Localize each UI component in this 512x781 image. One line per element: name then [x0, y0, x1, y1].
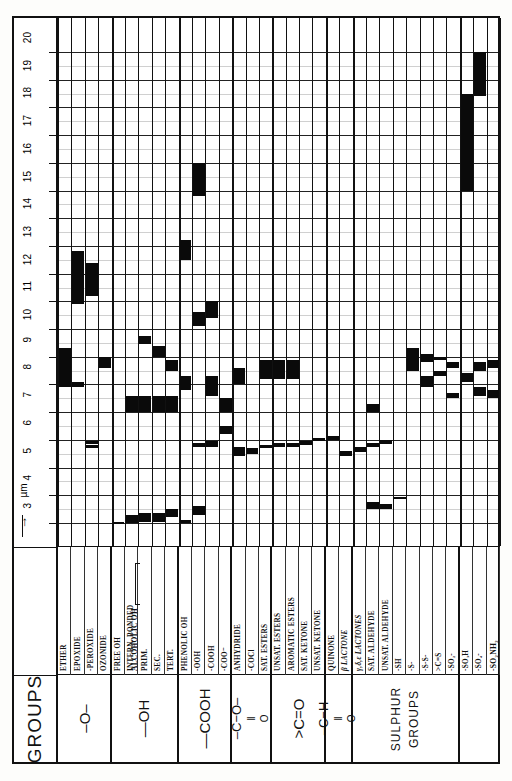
column-separator [406, 18, 407, 546]
subgroup-label-cell-sat-ketone: SAT. KETONE [299, 547, 312, 675]
axis-tick-mark [49, 52, 56, 53]
family-label-hydroxyl: —OH [136, 700, 153, 738]
absorption-band-bar [260, 360, 272, 379]
absorption-band-bar [166, 509, 178, 517]
subgroup-label: SAT. KETONE [301, 621, 309, 671]
absorption-band-bar [180, 520, 192, 523]
absorption-band-bar [153, 346, 165, 357]
subgroup-label-cell-so3h: -SO₃H [460, 547, 473, 675]
subgroup-label-cell-anhydride: ANHYDRIDE [232, 547, 245, 675]
axis-tick-mark [49, 357, 56, 358]
absorption-band-bar [113, 522, 125, 524]
subgroup-label: -COOH [208, 645, 216, 671]
subgroup-label: -SO₂NH₂ [488, 640, 497, 671]
subgroup-label: ANHYDRIDE [234, 624, 242, 671]
absorption-band-bar [166, 360, 178, 371]
subgroup-label-cell-gde-lactones: γ,δ,ε LACTONES [353, 547, 366, 675]
column-separator [339, 18, 340, 546]
subgroup-label-cell-s: -S- [406, 547, 419, 675]
axis-tick-mark [49, 80, 56, 81]
absorption-band-bar [394, 497, 406, 500]
absorption-band-bar [380, 440, 392, 444]
absorption-band-bar [327, 436, 339, 440]
absorption-band-bar [447, 362, 459, 368]
column-separator [125, 18, 126, 546]
absorption-band-bar [233, 368, 245, 385]
subgroup-label: UNSAT. ALDEHYDE [382, 599, 390, 671]
subgroup-label-cell-ether: ETHER [58, 547, 71, 675]
subgroup-label: -COO⁻ [220, 647, 229, 671]
absorption-band-bar [287, 443, 299, 447]
absorption-band-bar [247, 448, 259, 454]
column-separator [205, 18, 206, 546]
subgroup-label-cell-aromatic-esters: AROMATIC ESTERS [286, 547, 299, 675]
family-label-sulphur: SULPHURGROUPS [387, 686, 423, 750]
absorption-band-bar [193, 163, 205, 196]
subgroup-label-cell-coo-minus: -COO⁻ [219, 547, 232, 675]
subgroup-label: -SO₄- [475, 653, 483, 671]
absorption-band-bar [488, 360, 500, 368]
ir-correlation-chart: 34567891011121314151617181920µm→ ETHEREP… [12, 16, 500, 764]
subgroup-label: EPOXIDE [74, 636, 82, 671]
axis-tick-mark [49, 163, 56, 164]
absorption-band-bar [86, 441, 98, 444]
axis-tick-label: 20 [21, 32, 35, 72]
absorption-band-bar [193, 443, 205, 447]
axis-tick-mark [49, 246, 56, 247]
subgroup-label: -SO₃H [462, 650, 470, 671]
column-separator [58, 18, 59, 546]
absorption-band-bar [206, 301, 218, 318]
subgroup-label: AROMATIC ESTERS [288, 597, 296, 671]
family-separator [112, 18, 114, 546]
column-separator [446, 18, 447, 546]
absorption-band-bar [139, 336, 151, 344]
subgroup-label-cell-sat-aldehyde: SAT. ALDEHYDE [366, 547, 379, 675]
absorption-band-bar [367, 443, 379, 447]
absorption-band-bar [340, 451, 352, 457]
absorption-band-bar [273, 443, 285, 447]
absorption-band-bar [86, 445, 98, 448]
family-label-ketone: >C=O [290, 698, 307, 738]
family-cell-sulphur: SULPHURGROUPS [353, 675, 460, 762]
subgroup-label-cell-cs: >C=S [433, 547, 446, 675]
subgroup-label-cell-quinone: QUINONE [326, 547, 339, 675]
subgroup-label-cell-ooh: -OOH [192, 547, 205, 675]
subgroup-label: PHENOLIC OH [181, 616, 189, 671]
subgroup-label: -SH [395, 658, 403, 671]
axis-tick-mark [49, 301, 56, 302]
axis-tick-mark [49, 384, 56, 385]
axis-tick-mark [49, 274, 56, 275]
column-separator [366, 18, 367, 546]
axis-tick-mark [49, 440, 56, 441]
subgroup-label: -OOH [194, 651, 202, 671]
absorption-band-bar [180, 240, 192, 259]
subgroup-label-cell-unsat-esters: UNSAT. ESTERS [272, 547, 285, 675]
wavelength-scale-axis: 34567891011121314151617181920µm→ [14, 18, 58, 547]
family-cell-aldehyde: –C−H‖O [326, 675, 353, 762]
axis-tick-mark [49, 135, 56, 136]
subgroup-label: SAT. ESTERS [261, 624, 269, 671]
subgroup-label-cell-sat-esters: SAT. ESTERS [259, 547, 272, 675]
axis-unit-label: µm [18, 483, 29, 497]
column-separator [433, 18, 434, 546]
subgroup-label-cell-beta-lactone: β LACTONE [339, 547, 352, 675]
absorption-band-bar [220, 426, 232, 434]
subgroup-label-cell-so2: -SO₂- [446, 547, 459, 675]
subgroup-label: -S-S- [422, 654, 430, 671]
absorption-band-bar [206, 376, 218, 395]
scale-label-spacer [14, 547, 58, 675]
absorption-band-bar [193, 506, 205, 514]
column-separator [259, 18, 260, 546]
family-separator [272, 18, 274, 546]
axis-tick-mark [49, 523, 56, 524]
column-separator [152, 18, 153, 546]
absorption-band-bar [421, 376, 433, 387]
axis-arrow-shaft [22, 515, 23, 537]
column-separator [500, 18, 501, 546]
subgroup-label: -PEROXIDE [87, 628, 95, 671]
subgroup-label-cell-sh: -SH [393, 547, 406, 675]
column-separator [98, 18, 99, 546]
family-cell-carboxyl: —COOH [179, 675, 233, 762]
subgroup-label-cell-unsat-aldehyde: UNSAT. ALDEHYDE [379, 547, 392, 675]
axis-tick-mark [49, 218, 56, 219]
